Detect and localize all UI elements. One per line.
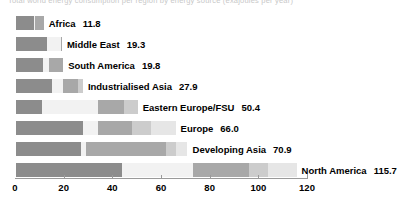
x-axis-tick-label: 60 (156, 182, 167, 193)
bar-segment[interactable] (63, 79, 79, 93)
x-axis-tick-label: 20 (58, 182, 69, 193)
bar-segment[interactable] (47, 37, 61, 51)
x-axis-tick-label: 0 (12, 182, 17, 193)
y-axis-baseline (15, 16, 16, 178)
x-axis-end-tick (307, 174, 308, 179)
bar-row: North America115.7 (0, 163, 407, 177)
stacked-bar[interactable] (15, 121, 176, 135)
bar-segment[interactable] (15, 100, 42, 114)
bar-segment[interactable] (176, 142, 188, 156)
bar-segment[interactable] (151, 121, 175, 135)
bar-label: Africa11.8 (49, 18, 101, 29)
bar-segment[interactable] (193, 163, 249, 177)
bar-label-value: 19.3 (127, 39, 146, 50)
bar-segment[interactable] (122, 163, 193, 177)
bar-row: Developing Asia70.9 (0, 142, 407, 156)
bar-segment[interactable] (15, 16, 34, 30)
stacked-bar[interactable] (15, 79, 83, 93)
bar-segment[interactable] (15, 121, 83, 135)
x-axis-tick (210, 175, 211, 179)
bar-row: Africa11.8 (0, 16, 407, 30)
bar-segment[interactable] (98, 100, 125, 114)
bar-segment[interactable] (15, 79, 52, 93)
bar-row: South America19.8 (0, 58, 407, 72)
bar-segment[interactable] (15, 163, 122, 177)
bar-label: South America19.8 (68, 60, 160, 71)
bar-row: Industrialised Asia27.9 (0, 79, 407, 93)
bar-segment[interactable] (15, 37, 47, 51)
bar-segment[interactable] (86, 142, 166, 156)
x-axis-tick (64, 175, 65, 179)
bar-segment[interactable] (98, 121, 132, 135)
bar-label-value: 50.4 (241, 102, 260, 113)
bar-segment[interactable] (15, 142, 81, 156)
bar-segment[interactable] (124, 100, 137, 114)
bar-label-name: Africa (49, 18, 76, 29)
bar-segment[interactable] (49, 58, 63, 72)
bar-label-value: 19.8 (142, 60, 161, 71)
stacked-bar[interactable] (15, 37, 62, 51)
bar-label-name: South America (68, 60, 135, 71)
plot-area: Africa11.8Middle East19.3South America19… (0, 0, 407, 217)
bar-row: Middle East19.3 (0, 37, 407, 51)
bar-label-value: 11.8 (83, 18, 101, 29)
bar-segment[interactable] (132, 121, 151, 135)
bar-label-name: North America (302, 165, 367, 176)
x-axis-tick (258, 175, 259, 179)
stacked-bar[interactable] (15, 58, 63, 72)
bar-segment[interactable] (268, 163, 296, 177)
x-axis-tick-label: 100 (250, 182, 266, 193)
x-axis-tick (161, 175, 162, 179)
bar-segment[interactable] (83, 121, 98, 135)
stacked-bar[interactable] (15, 163, 297, 177)
bar-label: Developing Asia70.9 (193, 144, 292, 155)
bar-segment[interactable] (61, 37, 62, 51)
bar-segment[interactable] (52, 79, 63, 93)
stacked-bar[interactable] (15, 142, 188, 156)
bar-label: Eastern Europe/FSU50.4 (143, 102, 260, 113)
bar-label-value: 70.9 (273, 144, 292, 155)
bar-segment[interactable] (78, 79, 83, 93)
bar-segment[interactable] (42, 100, 98, 114)
bar-segment[interactable] (166, 142, 176, 156)
bar-label: Industrialised Asia27.9 (88, 81, 198, 92)
bar-segment[interactable] (35, 16, 43, 30)
x-axis-tick (112, 175, 113, 179)
bar-label-value: 27.9 (179, 81, 198, 92)
bar-label: Europe66.0 (181, 123, 239, 134)
bar-label-value: 66.0 (220, 123, 239, 134)
bar-row: Eastern Europe/FSU50.4 (0, 100, 407, 114)
x-axis-tick-label: 120 (299, 182, 315, 193)
bar-label: Middle East19.3 (67, 39, 145, 50)
bar-label-name: Middle East (67, 39, 120, 50)
bar-label-name: Industrialised Asia (88, 81, 172, 92)
bar-row: Europe66.0 (0, 121, 407, 135)
bar-label: North America115.7 (302, 165, 397, 176)
bar-label-name: Eastern Europe/FSU (143, 102, 235, 113)
bar-segment[interactable] (15, 58, 43, 72)
chart-root: Total world energy consumption per regio… (0, 0, 407, 217)
bar-label-value: 115.7 (374, 165, 397, 176)
bar-label-name: Europe (181, 123, 214, 134)
x-axis-tick-label: 40 (107, 182, 118, 193)
bar-label-name: Developing Asia (193, 144, 267, 155)
x-axis-tick-label: 80 (204, 182, 215, 193)
stacked-bar[interactable] (15, 100, 138, 114)
stacked-bar[interactable] (15, 16, 44, 30)
